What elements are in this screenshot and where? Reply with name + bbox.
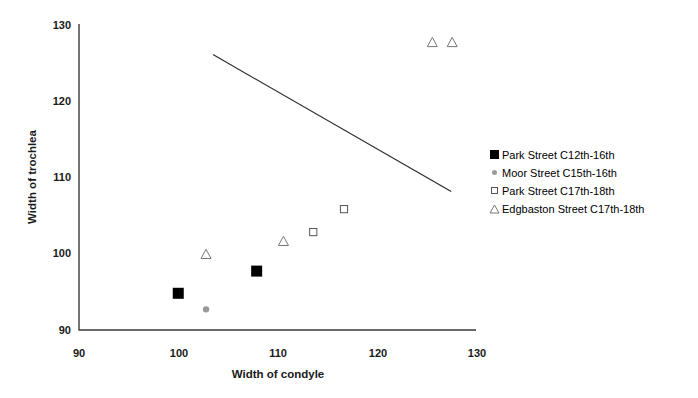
data-point [173, 288, 184, 299]
y-tick-label: 130 [53, 19, 71, 31]
x-tick-label: 100 [170, 347, 188, 359]
data-point [310, 228, 317, 235]
legend: Park Street C12th-16th Moor Street C15th… [487, 146, 692, 218]
legend-item-label: Moor Street C15th-16th [502, 167, 617, 179]
y-axis-title: Width of trochlea [26, 129, 38, 223]
open-triangle-icon [487, 202, 501, 216]
y-tick-label: 90 [59, 324, 71, 336]
y-tick-label: 100 [53, 247, 71, 259]
gray-dot-icon [487, 166, 501, 180]
trend-line [213, 55, 451, 192]
legend-item-park-street-c17th-18th[interactable]: Park Street C17th-18th [487, 182, 692, 199]
y-tick-label: 110 [53, 171, 71, 183]
x-tick-label: 90 [73, 347, 85, 359]
data-point [340, 206, 347, 213]
legend-item-edgbaston-street-c17th-18th[interactable]: Edgbaston Street C17th-18th [487, 200, 692, 217]
legend-item-moor-street-c15th-16th[interactable]: Moor Street C15th-16th [487, 164, 692, 181]
data-point [201, 249, 211, 258]
data-point [427, 37, 437, 46]
data-point [251, 266, 262, 277]
filled-square-icon [487, 148, 501, 162]
scatter-chart: 130 120 110 100 90 90 100 110 120 130 Wi… [0, 0, 698, 398]
x-tick-label: 120 [369, 347, 387, 359]
x-tick-label: 130 [468, 347, 486, 359]
y-tick-label: 120 [53, 95, 71, 107]
x-axis-title: Width of condyle [232, 368, 325, 380]
legend-item-label: Park Street C17th-18th [502, 185, 615, 197]
data-point [447, 37, 457, 46]
data-markers [173, 37, 457, 312]
data-point [203, 306, 209, 312]
data-point [278, 236, 288, 245]
x-tick-label: 110 [269, 347, 287, 359]
axis-lines [79, 24, 476, 330]
legend-item-label: Park Street C12th-16th [502, 149, 615, 161]
open-square-icon [487, 184, 501, 198]
legend-item-park-street-c12th-16th[interactable]: Park Street C12th-16th [487, 146, 692, 163]
legend-item-label: Edgbaston Street C17th-18th [502, 203, 644, 215]
